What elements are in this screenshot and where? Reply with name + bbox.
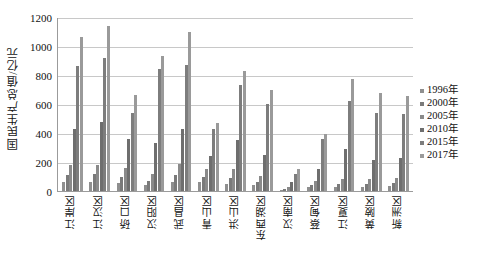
bar bbox=[107, 26, 110, 191]
legend-label: 2017年 bbox=[427, 150, 458, 161]
x-axis-tick-labels: 江岸区江汉区硚口区汉阳区武昌区青山区洪山区东西湖区汉南区蔡甸区江夏区黄陂区新洲区 bbox=[57, 194, 413, 256]
x-axis-tick-label: 江汉区 bbox=[94, 194, 105, 229]
y-axis-tick: 1200 bbox=[30, 13, 52, 24]
legend-item[interactable]: 1996年 bbox=[420, 84, 478, 97]
x-axis-tick-label: 硚口区 bbox=[121, 194, 132, 229]
legend-label: 1996年 bbox=[427, 85, 458, 96]
x-axis-tick-label: 青山区 bbox=[203, 194, 214, 229]
x-axis-tick-label: 洪山区 bbox=[230, 194, 241, 229]
x-axis-tick-label: 汉南区 bbox=[284, 194, 295, 229]
bar bbox=[324, 134, 327, 191]
bar-group bbox=[86, 18, 113, 191]
y-axis-tick-labels: 020040060080010001200 bbox=[24, 0, 55, 256]
bar bbox=[406, 96, 409, 191]
legend-swatch-icon bbox=[420, 115, 424, 119]
bar bbox=[216, 123, 219, 191]
y-axis-tick: 200 bbox=[36, 158, 53, 169]
bar bbox=[161, 56, 164, 191]
bar-group bbox=[249, 18, 276, 191]
legend-swatch-icon bbox=[420, 141, 424, 145]
bars-layer bbox=[58, 18, 413, 191]
bar-group bbox=[276, 18, 303, 191]
bar bbox=[188, 32, 191, 191]
legend-label: 2005年 bbox=[427, 111, 458, 122]
bar bbox=[270, 90, 273, 192]
legend-swatch-icon bbox=[420, 102, 424, 106]
legend-item[interactable]: 2015年 bbox=[420, 136, 478, 149]
x-axis-tick-label: 东西湖区 bbox=[257, 194, 268, 240]
legend-item[interactable]: 2000年 bbox=[420, 97, 478, 110]
bar-group bbox=[168, 18, 195, 191]
x-axis-tick-label: 江岸区 bbox=[66, 194, 77, 229]
legend-item[interactable]: 2010年 bbox=[420, 123, 478, 136]
y-axis-title: 国民生产总值/亿元 bbox=[2, 0, 24, 195]
bar bbox=[134, 95, 137, 191]
bar-group bbox=[195, 18, 222, 191]
bar-group bbox=[303, 18, 330, 191]
legend-swatch-icon bbox=[420, 89, 424, 93]
x-axis-tick-label: 蔡甸区 bbox=[311, 194, 322, 229]
legend-item[interactable]: 2005年 bbox=[420, 110, 478, 123]
bar-group bbox=[113, 18, 140, 191]
y-axis-title-label: 国民生产总值/亿元 bbox=[5, 46, 21, 150]
bar-group bbox=[140, 18, 167, 191]
bar bbox=[243, 71, 246, 191]
x-axis-tick: 东西湖区 bbox=[249, 194, 276, 256]
x-axis-tick: 洪山区 bbox=[221, 194, 248, 256]
bar bbox=[80, 37, 83, 191]
legend-swatch-icon bbox=[420, 154, 424, 158]
bar-group bbox=[385, 18, 412, 191]
x-axis-tick: 黄陂区 bbox=[358, 194, 385, 256]
bar bbox=[351, 79, 354, 191]
x-axis-tick-label: 黄陂区 bbox=[366, 194, 377, 229]
x-axis-tick: 新洲区 bbox=[385, 194, 412, 256]
bar-chart: 国民生产总值/亿元 020040060080010001200 江岸区江汉区硚口… bbox=[0, 0, 478, 256]
y-axis-tick: 600 bbox=[36, 100, 53, 111]
x-axis-tick-label: 汉阳区 bbox=[148, 194, 159, 229]
x-axis-tick: 汉阳区 bbox=[140, 194, 167, 256]
y-axis-tick: 400 bbox=[36, 129, 53, 140]
bar-group bbox=[331, 18, 358, 191]
y-axis-tick: 800 bbox=[36, 71, 53, 82]
bar-group bbox=[222, 18, 249, 191]
x-axis-tick: 武昌区 bbox=[167, 194, 194, 256]
x-axis-tick-label: 江夏区 bbox=[339, 194, 350, 229]
y-axis-tick: 1000 bbox=[30, 42, 52, 53]
bar-group bbox=[59, 18, 86, 191]
x-axis-tick: 汉南区 bbox=[276, 194, 303, 256]
x-axis-tick: 江汉区 bbox=[85, 194, 112, 256]
legend-label: 2000年 bbox=[427, 98, 458, 109]
x-axis-tick: 蔡甸区 bbox=[303, 194, 330, 256]
x-axis-tick-label: 武昌区 bbox=[175, 194, 186, 229]
y-axis-tick: 0 bbox=[47, 187, 53, 198]
legend-label: 2010年 bbox=[427, 124, 458, 135]
chart-legend: 1996年2000年2005年2010年2015年2017年 bbox=[420, 84, 478, 162]
legend-item[interactable]: 2017年 bbox=[420, 149, 478, 162]
legend-swatch-icon bbox=[420, 128, 424, 132]
x-axis-tick: 青山区 bbox=[194, 194, 221, 256]
legend-label: 2015年 bbox=[427, 137, 458, 148]
x-axis-tick: 江夏区 bbox=[330, 194, 357, 256]
x-axis-tick: 硚口区 bbox=[112, 194, 139, 256]
bar bbox=[379, 93, 382, 191]
x-axis-tick-label: 新洲区 bbox=[393, 194, 404, 229]
bar bbox=[297, 169, 300, 191]
plot-area bbox=[57, 18, 413, 192]
bar-group bbox=[358, 18, 385, 191]
x-axis-tick: 江岸区 bbox=[58, 194, 85, 256]
